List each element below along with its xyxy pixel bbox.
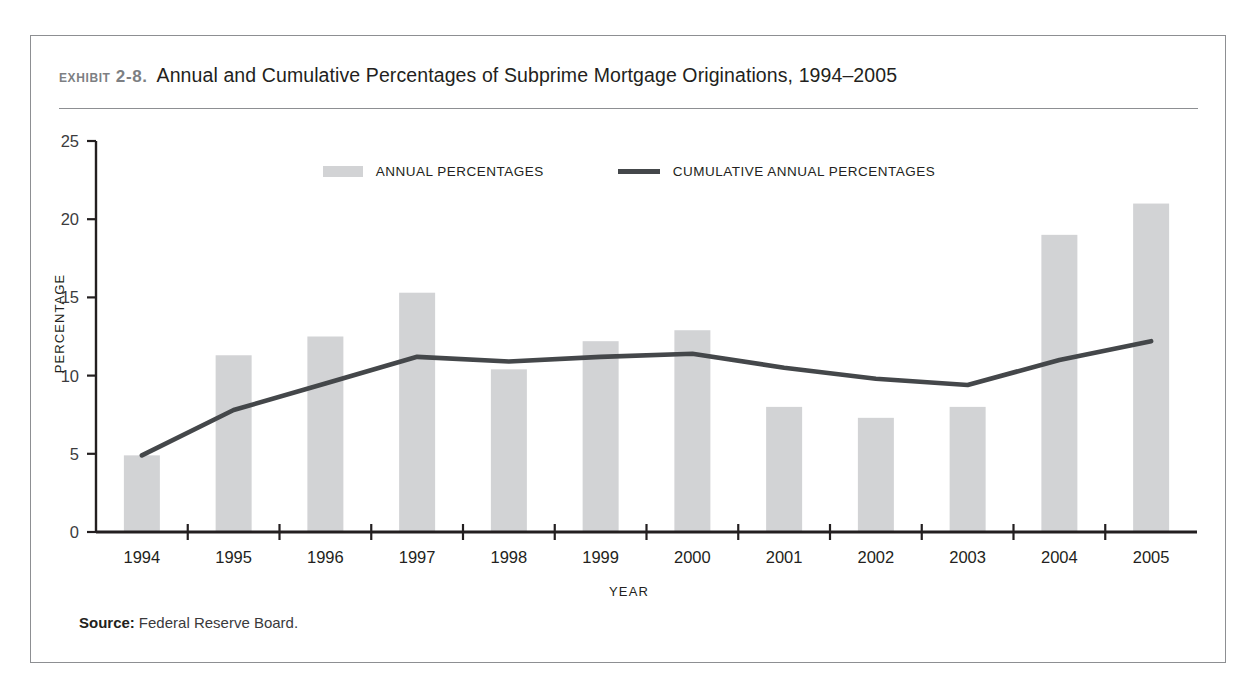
bar-2005: [1133, 204, 1169, 532]
cumulative-line: [142, 341, 1151, 455]
bar-2004: [1041, 235, 1077, 532]
x-tick-label-1998: 1998: [491, 548, 528, 566]
x-tick-label-2003: 2003: [949, 548, 986, 566]
exhibit-frame: Exhibit 2-8.Annual and Cumulative Percen…: [30, 35, 1226, 663]
x-tick-label-2002: 2002: [858, 548, 895, 566]
source-label: Source:: [79, 614, 135, 631]
axes-group: [87, 141, 1197, 540]
x-tick-label-2001: 2001: [766, 548, 803, 566]
x-tick-label-2004: 2004: [1041, 548, 1078, 566]
line-series-group: [142, 341, 1151, 455]
exhibit-page: Exhibit 2-8.Annual and Cumulative Percen…: [0, 0, 1257, 695]
bar-1999: [583, 341, 619, 532]
bar-1996: [307, 337, 343, 533]
bar-2000: [674, 330, 710, 532]
x-axis-title: YEAR: [31, 584, 1227, 599]
y-tick-label-5: 5: [70, 445, 79, 463]
bar-2003: [950, 407, 986, 532]
x-tick-label-2005: 2005: [1133, 548, 1170, 566]
bar-series-group: [124, 204, 1169, 532]
x-tick-label-1995: 1995: [215, 548, 252, 566]
combo-bar-line-chart: 0510152025 19941995199619971998199920002…: [31, 36, 1227, 664]
bar-1998: [491, 369, 527, 532]
bar-2002: [858, 418, 894, 532]
x-axis-tick-labels: 1994199519961997199819992000200120022003…: [124, 548, 1170, 566]
y-axis-title: PERCENTAGE: [52, 274, 67, 374]
x-tick-label-1999: 1999: [582, 548, 619, 566]
source-text: Federal Reserve Board.: [139, 614, 298, 631]
bar-2001: [766, 407, 802, 532]
bar-1994: [124, 455, 160, 532]
source-note: Source:Federal Reserve Board.: [79, 614, 298, 631]
x-tick-label-1994: 1994: [124, 548, 161, 566]
x-tick-label-1996: 1996: [307, 548, 344, 566]
chart-canvas: 0510152025 19941995199619971998199920002…: [31, 36, 1227, 664]
y-tick-label-25: 25: [61, 132, 79, 150]
y-tick-label-20: 20: [61, 210, 79, 228]
x-tick-label-2000: 2000: [674, 548, 711, 566]
y-tick-label-0: 0: [70, 523, 79, 541]
x-tick-label-1997: 1997: [399, 548, 436, 566]
bar-1997: [399, 293, 435, 532]
bar-1995: [216, 355, 252, 532]
